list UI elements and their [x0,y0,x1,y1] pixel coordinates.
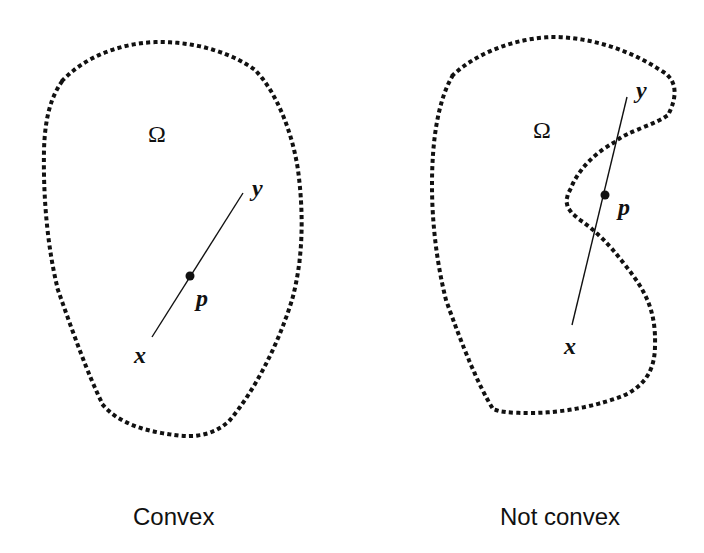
not-convex-point-p [601,191,610,200]
convex-label-y: y [249,175,263,201]
not-convex-caption: Not convex [500,503,620,530]
convex-region-boundary [44,42,302,436]
not-convex-label-p: p [616,194,630,220]
convex-label-x: x [133,342,146,368]
convex-panel: Ω y p x Convex [44,42,302,530]
not-convex-label-x: x [563,333,576,359]
convex-region-label: Ω [148,121,166,147]
not-convex-panel: Ω y p x Not convex [432,37,675,530]
convex-point-p [186,272,195,281]
not-convex-label-y: y [633,77,647,103]
convex-label-p: p [194,285,208,311]
convexity-diagram: Ω y p x Convex Ω y p x Not convex [0,0,704,553]
convex-segment-xy [152,193,243,337]
convex-caption: Convex [133,503,214,530]
not-convex-region-label: Ω [533,117,551,143]
